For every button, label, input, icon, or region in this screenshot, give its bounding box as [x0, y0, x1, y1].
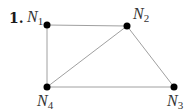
node-n3 [171, 84, 178, 91]
label-n4: N4 [36, 92, 54, 111]
graph-diagram: 1. N1 N2 N3 N4 [0, 0, 193, 112]
node-labels: N1 N2 N3 N4 [26, 5, 184, 111]
node-n2 [124, 23, 131, 30]
label-n3: N3 [166, 92, 184, 111]
label-n2: N2 [132, 5, 149, 24]
edge-n2-n3 [127, 26, 174, 87]
nodes [44, 22, 178, 91]
node-n1 [44, 22, 51, 29]
node-n4 [44, 84, 51, 91]
edge-n1-n2 [47, 25, 127, 26]
edge-n2-n4 [47, 26, 127, 87]
problem-number: 1. [9, 10, 24, 26]
label-n1: N1 [26, 8, 43, 27]
edges [47, 25, 174, 87]
